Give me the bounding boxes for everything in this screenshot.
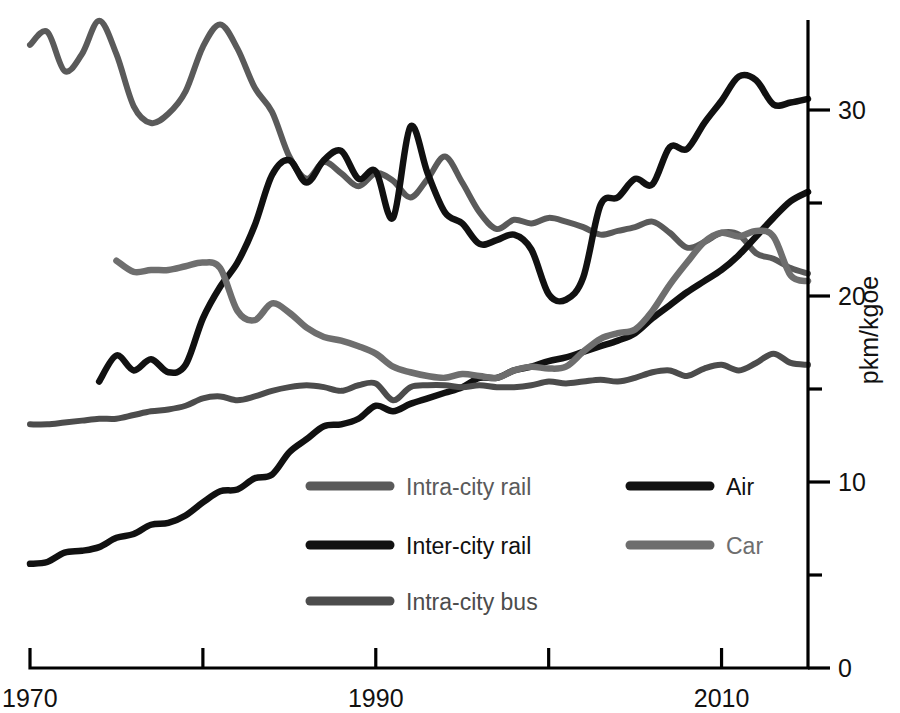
- legend-label: Intra-city bus: [406, 589, 538, 615]
- chart-figure: 1970199020100102030 Intra-city railInter…: [0, 0, 900, 713]
- chart-axes: [30, 20, 808, 668]
- x-axis-tick-label: 2010: [694, 684, 750, 712]
- line-chart-svg: 1970199020100102030 Intra-city railInter…: [0, 0, 900, 713]
- legend-item-air[interactable]: Air: [630, 474, 754, 500]
- legend-item-intra-city-bus[interactable]: Intra-city bus: [310, 589, 538, 615]
- y-axis-label: pkm/kgoe: [855, 276, 883, 384]
- legend-item-intra-city-rail[interactable]: Intra-city rail: [310, 474, 531, 500]
- chart-legend: Intra-city railInter-city railIntra-city…: [310, 474, 763, 615]
- legend-label: Intra-city rail: [406, 474, 531, 500]
- legend-item-inter-city-rail[interactable]: Inter-city rail: [310, 533, 531, 559]
- legend-label: Car: [726, 533, 763, 559]
- legend-item-car[interactable]: Car: [630, 533, 763, 559]
- series-line-air: [99, 75, 808, 382]
- y-axis-tick-label: 10: [838, 468, 866, 496]
- series-line-car: [116, 231, 808, 378]
- legend-label: Air: [726, 474, 754, 500]
- y-axis-tick-label: 30: [838, 96, 866, 124]
- x-axis-tick-label: 1970: [2, 684, 58, 712]
- x-axis-tick-label: 1990: [348, 684, 404, 712]
- legend-label: Inter-city rail: [406, 533, 531, 559]
- y-axis-tick-label: 0: [838, 654, 852, 682]
